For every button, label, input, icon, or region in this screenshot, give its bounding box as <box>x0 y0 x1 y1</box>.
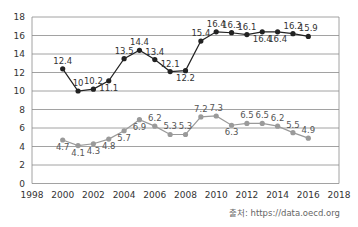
data-point <box>198 38 203 43</box>
data-point <box>244 121 249 126</box>
data-point <box>214 113 219 118</box>
data-label: 12.1 <box>161 59 180 69</box>
y-tick-label: 0 <box>19 179 25 189</box>
data-label: 4.1 <box>71 148 85 158</box>
x-tick-label: 2014 <box>266 190 289 200</box>
data-point <box>290 31 295 36</box>
line-chart: 024681012141618 199820002002200420062008… <box>0 0 358 227</box>
data-label: 6.2 <box>148 113 162 123</box>
y-tick-label: 2 <box>19 160 25 170</box>
y-tick-label: 18 <box>14 12 26 22</box>
y-tick-label: 10 <box>14 86 26 96</box>
data-label: 6.5 <box>255 110 269 120</box>
y-tick-label: 6 <box>19 123 25 133</box>
x-tick-label: 2010 <box>205 190 228 200</box>
y-tick-label: 14 <box>14 49 26 59</box>
gridlines <box>32 17 339 184</box>
y-tick-label: 4 <box>19 142 25 152</box>
x-tick-label: 2018 <box>328 190 351 200</box>
data-label: 7.2 <box>194 104 208 114</box>
data-label: 6.3 <box>225 127 239 137</box>
data-point <box>244 32 249 37</box>
source-note: 출처: https://data.oecd.org <box>229 206 340 218</box>
x-tick-label: 2008 <box>174 190 197 200</box>
series-dark: 12.41010.211.113.514.413.412.112.215.416… <box>53 19 318 94</box>
data-point <box>306 34 311 39</box>
data-point <box>152 57 157 62</box>
data-label: 5.3 <box>163 121 177 131</box>
data-label: 5.5 <box>286 120 300 130</box>
data-point <box>168 69 173 74</box>
data-point <box>91 87 96 92</box>
data-label: 4.3 <box>87 146 101 156</box>
data-label: 6.2 <box>271 113 285 123</box>
y-tick-label: 8 <box>19 105 25 115</box>
data-label: 16.4 <box>268 34 287 44</box>
data-point <box>168 132 173 137</box>
data-point <box>275 124 280 129</box>
data-point <box>229 30 234 35</box>
data-label: 5.7 <box>117 133 131 143</box>
data-label: 7.3 <box>209 103 223 113</box>
data-label: 13.4 <box>145 47 164 57</box>
x-tick-label: 2006 <box>143 190 166 200</box>
data-label: 6.9 <box>133 122 147 132</box>
data-label: 12.2 <box>176 73 195 83</box>
data-label: 12.4 <box>53 56 72 66</box>
y-tick-label: 16 <box>14 31 26 41</box>
data-point <box>198 114 203 119</box>
data-point <box>122 56 127 61</box>
data-label: 15.9 <box>299 23 318 33</box>
data-point <box>306 136 311 141</box>
data-point <box>290 130 295 135</box>
x-tick-label: 2002 <box>82 190 105 200</box>
data-point <box>183 132 188 137</box>
data-label: 16.1 <box>237 22 256 32</box>
data-label: 4.9 <box>302 125 316 135</box>
data-label: 11.1 <box>99 83 118 93</box>
series-light: 4.74.14.34.85.76.96.25.35.37.27.36.36.56… <box>56 103 315 158</box>
data-point <box>75 88 80 93</box>
data-series: 12.41010.211.113.514.413.412.112.215.416… <box>53 19 318 158</box>
data-point <box>260 121 265 126</box>
data-label: 5.3 <box>179 121 193 131</box>
data-label: 15.4 <box>191 28 210 38</box>
data-label: 4.7 <box>56 142 70 152</box>
y-axis-ticks: 024681012141618 <box>14 12 26 189</box>
data-point <box>214 29 219 34</box>
x-axis-ticks: 1998200020022004200620082010201220142016… <box>21 190 351 200</box>
data-point <box>137 48 142 53</box>
y-tick-label: 12 <box>14 68 25 78</box>
data-label: 6.5 <box>240 110 254 120</box>
x-tick-label: 2004 <box>113 190 136 200</box>
data-point <box>152 124 157 129</box>
x-tick-label: 2000 <box>51 190 74 200</box>
x-tick-label: 2016 <box>297 190 320 200</box>
data-label: 10 <box>73 78 84 88</box>
data-point <box>60 66 65 71</box>
x-tick-label: 2012 <box>235 190 258 200</box>
data-label: 4.8 <box>102 141 116 151</box>
x-tick-label: 1998 <box>21 190 44 200</box>
